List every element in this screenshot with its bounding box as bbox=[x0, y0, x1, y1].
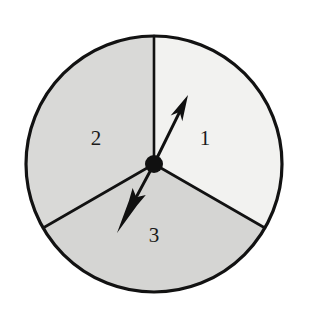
sector-2-label: 2 bbox=[91, 126, 102, 150]
spinner-figure: 1 2 3 bbox=[0, 0, 321, 313]
spinner-hub[interactable] bbox=[145, 155, 163, 173]
sector-1-label: 1 bbox=[200, 126, 211, 150]
sector-3-label: 3 bbox=[149, 223, 160, 247]
spinner-diagram: 1 2 3 bbox=[0, 0, 321, 313]
